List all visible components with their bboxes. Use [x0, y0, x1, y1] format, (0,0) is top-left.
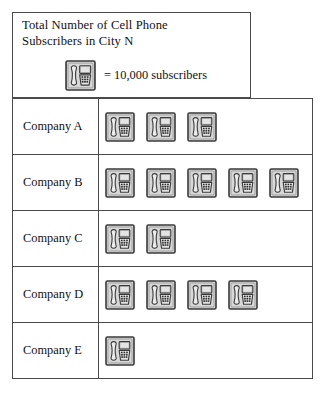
phone-icon — [65, 60, 96, 91]
phone-icon — [228, 280, 258, 310]
phone-icon — [228, 168, 258, 198]
row-icons — [99, 323, 312, 378]
table-row: Company D — [13, 266, 312, 322]
phone-icon — [187, 168, 217, 198]
row-label: Company A — [13, 99, 99, 154]
row-icons — [99, 267, 312, 322]
pictograph-table: Company A Company B Company C Company D … — [12, 98, 313, 379]
table-row: Company B — [13, 154, 312, 210]
phone-icon — [105, 168, 135, 198]
phone-icon — [146, 168, 176, 198]
row-label: Company E — [13, 323, 99, 378]
phone-icon — [105, 336, 135, 366]
phone-icon — [269, 168, 299, 198]
row-icons — [99, 99, 312, 154]
pictograph-figure: Total Number of Cell Phone Subscribers i… — [0, 0, 325, 393]
phone-icon — [105, 224, 135, 254]
row-label: Company D — [13, 267, 99, 322]
row-label: Company B — [13, 155, 99, 210]
title-legend-box: Total Number of Cell Phone Subscribers i… — [12, 12, 251, 98]
table-row: Company E — [13, 322, 312, 378]
table-row: Company C — [13, 210, 312, 266]
phone-icon — [146, 112, 176, 142]
phone-icon — [146, 224, 176, 254]
phone-icon — [187, 280, 217, 310]
row-label: Company C — [13, 211, 99, 266]
page-title: Total Number of Cell Phone Subscribers i… — [22, 18, 247, 49]
row-icons — [99, 155, 312, 210]
table-row: Company A — [13, 98, 312, 154]
phone-icon — [105, 280, 135, 310]
legend-label: = 10,000 subscribers — [104, 68, 207, 83]
row-icons — [99, 211, 312, 266]
phone-icon — [187, 112, 217, 142]
phone-icon — [105, 112, 135, 142]
legend: = 10,000 subscribers — [65, 60, 207, 91]
phone-icon — [146, 280, 176, 310]
